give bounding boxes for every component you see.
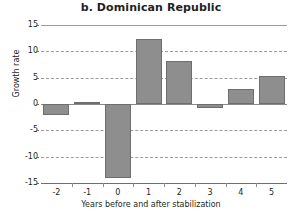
bar: [74, 102, 100, 104]
x-axis-tick-mark: [256, 183, 257, 187]
y-axis-tick-label: 5: [4, 74, 38, 82]
bar: [197, 104, 223, 108]
y-axis-tick-mark: [36, 51, 39, 52]
bar: [136, 39, 162, 104]
bar: [228, 89, 254, 104]
bar: [43, 104, 69, 115]
bar: [105, 104, 131, 178]
x-axis-tick-label: 1: [137, 188, 161, 197]
bar: [166, 61, 192, 104]
y-axis-tick-label: 10: [4, 47, 38, 55]
x-axis-tick-label: 4: [229, 188, 253, 197]
x-axis-tick-mark: [133, 183, 134, 187]
x-axis-tick-mark: [103, 183, 104, 187]
gridline: [41, 78, 287, 79]
x-axis-title: Years before and after stabilization: [0, 200, 302, 209]
x-axis-tick-label: 5: [260, 188, 284, 197]
x-axis-tick-mark: [164, 183, 165, 187]
gridline: [41, 157, 287, 158]
chart-figure: b. Dominican Republic Growth rate 151050…: [0, 0, 302, 213]
x-axis-tick-label: 3: [198, 188, 222, 197]
gridline: [41, 130, 287, 131]
chart-title: b. Dominican Republic: [0, 1, 302, 14]
y-axis-tick-label: -15: [4, 179, 38, 187]
x-axis-tick-mark: [226, 183, 227, 187]
y-axis-tick-label: 0: [4, 100, 38, 108]
y-axis-ticks: 151050-5-10-15: [0, 25, 38, 183]
y-axis-tick-mark: [36, 104, 39, 105]
y-axis-tick-mark: [36, 130, 39, 131]
gridline: [41, 25, 287, 26]
y-axis-tick-mark: [36, 157, 39, 158]
x-axis-tick-label: 2: [167, 188, 191, 197]
y-axis-tick-label: -10: [4, 153, 38, 161]
y-axis-tick-label: 15: [4, 21, 38, 29]
x-axis-tick-label: -2: [44, 188, 68, 197]
y-axis-tick-mark: [36, 78, 39, 79]
y-axis-tick-mark: [36, 25, 39, 26]
bar: [259, 76, 285, 104]
y-axis-tick-mark: [36, 183, 39, 184]
gridline: [41, 51, 287, 52]
x-axis-tick-label: 0: [106, 188, 130, 197]
x-axis-tick-mark: [195, 183, 196, 187]
x-axis-tick-mark: [72, 183, 73, 187]
plot-area: [41, 25, 287, 183]
x-axis-tick-label: -1: [75, 188, 99, 197]
y-axis-tick-label: -5: [4, 126, 38, 134]
